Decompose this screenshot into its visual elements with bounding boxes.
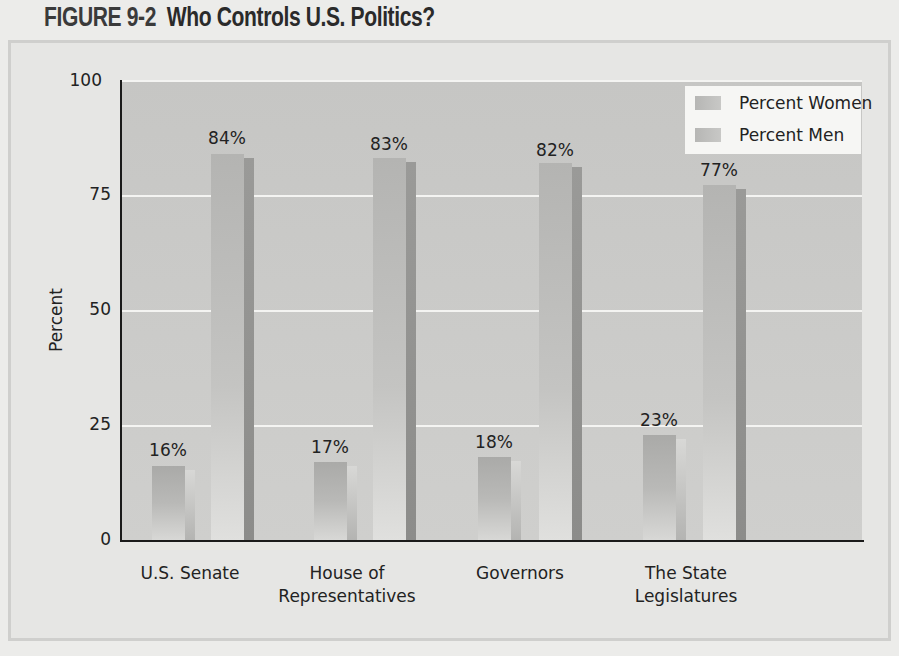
label-senate-men: 84% <box>197 128 257 148</box>
bar-governors-women <box>478 457 511 540</box>
y-tick-75: 75 <box>61 184 111 204</box>
label-governors-women: 18% <box>464 432 524 452</box>
legend-item-men: Percent Men <box>695 124 844 146</box>
x-label-governors: Governors <box>470 562 570 585</box>
y-tick-0: 0 <box>61 529 111 549</box>
y-tick-25: 25 <box>61 414 111 434</box>
bar-senate-women <box>152 466 185 540</box>
bar-governors-men <box>539 163 572 540</box>
gridline-100 <box>122 80 862 82</box>
legend-swatch-men <box>695 128 721 142</box>
x-label-senate: U.S. Senate <box>130 562 250 585</box>
label-senate-women: 16% <box>138 440 198 460</box>
legend-swatch-women <box>695 96 721 110</box>
legend: Percent Women Percent Men <box>685 86 861 154</box>
y-axis-label: Percent <box>46 280 66 360</box>
y-tick-100: 100 <box>52 70 102 90</box>
label-house-women: 17% <box>300 437 360 457</box>
figure-number: FIGURE 9-2 <box>44 2 156 32</box>
figure-title-text: Who Controls U.S. Politics? <box>167 2 435 32</box>
x-label-house: House of Representatives <box>272 562 422 608</box>
bar-house-women <box>314 462 347 540</box>
figure-title: FIGURE 9-2Who Controls U.S. Politics? <box>44 2 435 33</box>
bar-legislatures-women <box>643 435 676 540</box>
y-tick-50: 50 <box>61 299 111 319</box>
bar-legislatures-men <box>703 185 736 540</box>
y-axis-line <box>120 80 122 542</box>
legend-item-women: Percent Women <box>695 92 872 114</box>
x-axis-line <box>120 540 864 542</box>
bar-house-men <box>373 158 406 540</box>
x-label-legislatures: The State Legislatures <box>626 562 746 608</box>
legend-label-men: Percent Men <box>739 125 844 145</box>
bar-senate-men <box>211 154 244 540</box>
label-governors-men: 82% <box>525 140 585 160</box>
label-legislatures-women: 23% <box>629 410 689 430</box>
label-legislatures-men: 77% <box>689 160 749 180</box>
legend-label-women: Percent Women <box>739 93 872 113</box>
label-house-men: 83% <box>359 134 419 154</box>
